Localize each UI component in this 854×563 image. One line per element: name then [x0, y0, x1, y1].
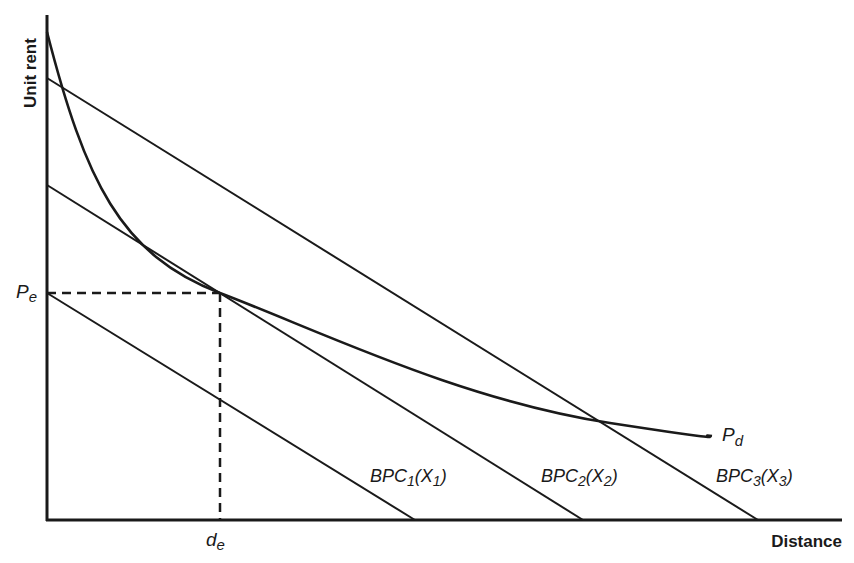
pe-label-sub: e	[29, 288, 37, 305]
pe-label: Pe	[16, 281, 37, 305]
bpc3-index: 3	[753, 473, 761, 489]
de-label: de	[206, 529, 225, 553]
bpc1-label: BPC1(X1)	[370, 466, 447, 489]
x-axis-label: Distance	[771, 532, 842, 551]
pd-label: Pd	[722, 424, 744, 449]
bpc3-arg-index: 3	[779, 473, 787, 489]
bpc2-arg-index: 2	[603, 473, 612, 489]
bpc1-line	[47, 293, 415, 520]
bpc2-label: BPC2(X2)	[541, 466, 618, 489]
de-label-sub: e	[217, 536, 225, 553]
pd-label-sub: d	[735, 432, 744, 449]
pd-curve	[47, 32, 712, 437]
bpc1-index: 1	[407, 473, 415, 489]
bpc1-arg-index: 1	[433, 473, 441, 489]
bid-price-diagram: Unit rent Distance Pe de Pd BPC1(X1) BPC…	[0, 0, 854, 563]
bpc2-arg: X	[591, 466, 605, 486]
bpc2-line	[47, 185, 583, 520]
bpc3-arg: X	[766, 466, 780, 486]
bpc2-index: 2	[577, 473, 586, 489]
bpc1-arg: X	[420, 466, 434, 486]
bpc1-name: BPC	[370, 466, 408, 486]
bpc3-name: BPC	[716, 466, 754, 486]
bpc3-line	[47, 78, 758, 520]
bpc2-name: BPC	[541, 466, 579, 486]
y-axis-label: Unit rent	[21, 38, 40, 108]
pe-label-main: P	[16, 281, 29, 302]
bpc3-label: BPC3(X3)	[716, 466, 793, 489]
pd-label-main: P	[722, 424, 735, 445]
